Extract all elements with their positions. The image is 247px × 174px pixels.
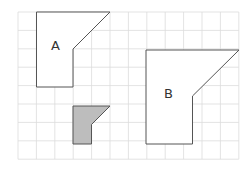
- grid-diagram: AB: [0, 0, 247, 174]
- shape-small: [73, 106, 110, 144]
- shape-label-a: A: [51, 38, 60, 53]
- diagram-canvas: AB: [0, 0, 247, 174]
- shape-label-b: B: [164, 86, 173, 101]
- shape-a: [37, 12, 111, 87]
- shape-b: [146, 50, 239, 144]
- shapes: AB: [37, 12, 240, 144]
